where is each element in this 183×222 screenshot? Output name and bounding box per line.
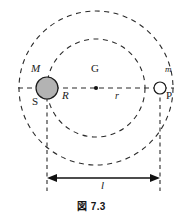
arrowhead-right-icon xyxy=(150,174,160,182)
label-barycenter: G xyxy=(91,63,99,74)
label-radius-primary: R xyxy=(62,90,69,101)
body-secondary-p xyxy=(154,82,166,94)
figure-caption: 図 7.3 xyxy=(0,198,183,213)
two-body-orbit-diagram xyxy=(0,0,183,222)
label-primary-body: S xyxy=(32,96,38,107)
figure-container: M S G m P R r l 図 7.3 xyxy=(0,0,183,222)
arrowhead-left-icon xyxy=(47,174,57,182)
body-primary-s xyxy=(36,77,58,99)
label-separation: l xyxy=(101,180,104,191)
label-secondary-body: P xyxy=(166,90,172,101)
label-secondary-mass: m xyxy=(165,65,172,74)
label-primary-mass: M xyxy=(31,63,40,74)
label-radius-secondary: r xyxy=(115,91,119,101)
barycenter-dot-g xyxy=(94,86,98,90)
